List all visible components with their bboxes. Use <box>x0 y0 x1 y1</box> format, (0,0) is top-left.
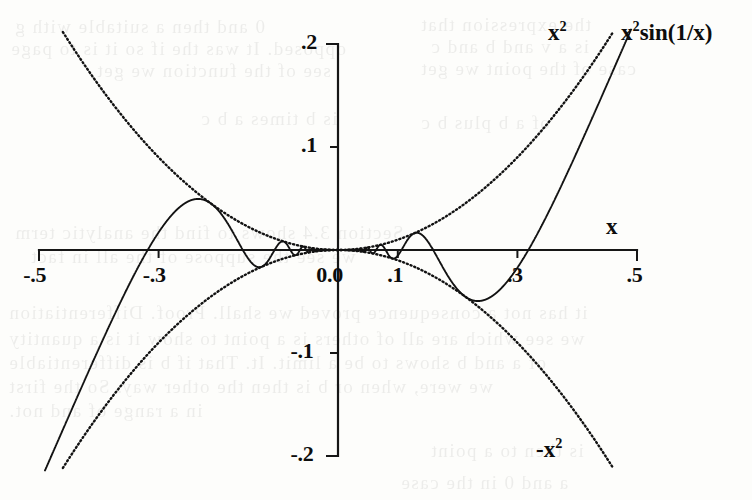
x-tick-label: .3 <box>507 262 523 288</box>
curve-label-lower-envelope: -x2 <box>536 437 562 463</box>
x-tick-label: .1 <box>387 262 403 288</box>
x-tick-label: -.3 <box>143 262 166 288</box>
y-tick-label: .1 <box>301 132 317 158</box>
y-tick-label: -.2 <box>291 441 314 467</box>
plot-canvas <box>0 0 752 500</box>
x-axis-label: x <box>606 214 618 240</box>
curve-label-upper-envelope: x2 <box>548 20 567 46</box>
curve-label-main-curve: x2sin(1/x) <box>621 20 712 46</box>
y-tick-label: -.1 <box>291 338 314 364</box>
y-tick-label: .2 <box>301 29 317 55</box>
figure-page: 0 and then a suitable with gopposed. It … <box>0 0 752 500</box>
x-tick-label: -.5 <box>23 262 46 288</box>
x-tick-label: 0.0 <box>316 262 343 288</box>
x-tick-label: .5 <box>627 262 643 288</box>
